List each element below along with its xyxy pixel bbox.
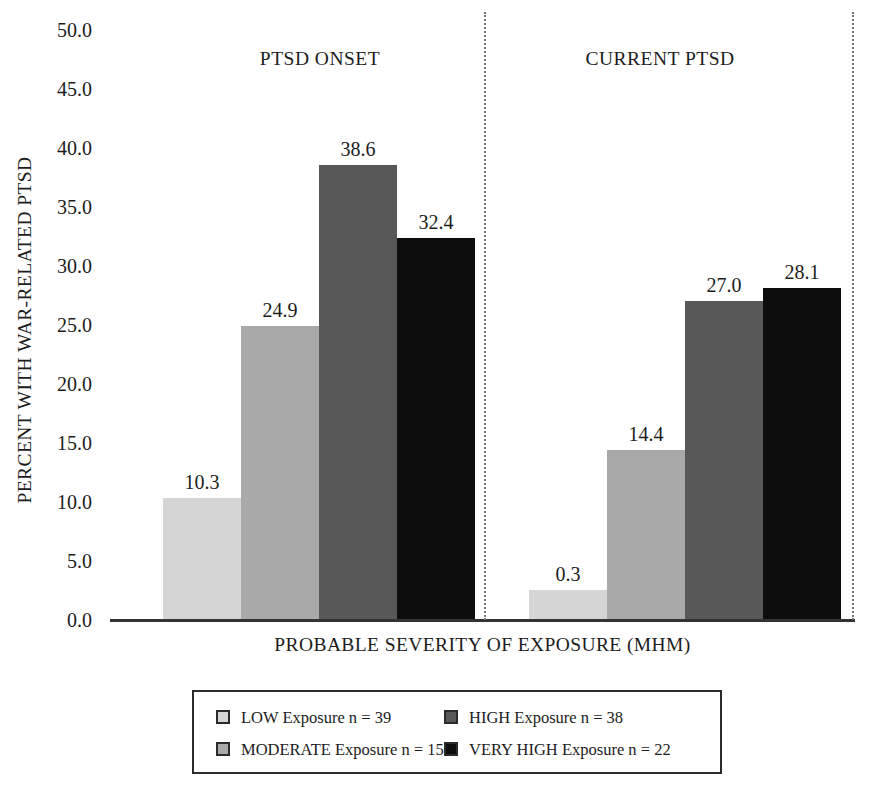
y-axis-tick-label: 45.0 — [0, 79, 104, 99]
bar-value-label: 0.3 — [529, 564, 607, 584]
y-axis-tick-label: 5.0 — [0, 551, 104, 571]
legend-item[interactable]: MODERATE Exposure n = 159 — [216, 736, 452, 762]
legend-item[interactable]: VERY HIGH Exposure n = 22 — [444, 736, 671, 762]
bar-value-label: 10.3 — [163, 472, 241, 492]
y-axis-tick-label: 30.0 — [0, 256, 104, 276]
x-axis-baseline — [110, 619, 855, 622]
legend-swatch-icon — [444, 710, 458, 724]
bar — [397, 238, 475, 620]
bar — [685, 301, 763, 620]
panel-divider-1 — [484, 12, 486, 620]
bar-value-label: 38.6 — [319, 139, 397, 159]
legend-swatch-icon — [216, 742, 230, 756]
legend-item-label: VERY HIGH Exposure n = 22 — [469, 741, 671, 758]
y-axis-tick-labels: 50.045.040.035.030.025.020.015.010.05.00… — [0, 0, 104, 801]
bar — [241, 326, 319, 620]
bar-value-label: 27.0 — [685, 275, 763, 295]
group-label: CURRENT PTSD — [510, 48, 810, 70]
panel-divider-2 — [852, 12, 854, 620]
y-axis-tick-label: 15.0 — [0, 433, 104, 453]
chart-figure: PERCENT WITH WAR-RELATED PTSD 50.045.040… — [0, 0, 881, 801]
legend-item-label: LOW Exposure n = 39 — [241, 709, 391, 726]
bar-value-label: 28.1 — [763, 262, 841, 282]
bar-value-label: 24.9 — [241, 300, 319, 320]
group-label: PTSD ONSET — [170, 48, 470, 70]
bar — [163, 498, 241, 620]
bar — [607, 450, 685, 620]
legend-item-label: MODERATE Exposure n = 159 — [241, 741, 452, 758]
y-axis-tick-label: 20.0 — [0, 374, 104, 394]
y-axis-tick-label: 35.0 — [0, 197, 104, 217]
legend-box: LOW Exposure n = 39HIGH Exposure n = 38M… — [192, 690, 722, 774]
legend-item[interactable]: HIGH Exposure n = 38 — [444, 704, 623, 730]
y-axis-tick-label: 10.0 — [0, 492, 104, 512]
bar-value-label: 32.4 — [397, 212, 475, 232]
legend-item[interactable]: LOW Exposure n = 39 — [216, 704, 391, 730]
legend-item-label: HIGH Exposure n = 38 — [469, 709, 623, 726]
y-axis-tick-label: 25.0 — [0, 315, 104, 335]
bar — [319, 165, 397, 620]
bar — [529, 590, 607, 620]
bar-value-label: 14.4 — [607, 424, 685, 444]
legend-swatch-icon — [444, 742, 458, 756]
plot-area: 10.324.938.632.40.314.427.028.1 — [110, 30, 855, 620]
legend-swatch-icon — [216, 710, 230, 724]
y-axis-tick-label: 40.0 — [0, 138, 104, 158]
y-axis-tick-label: 50.0 — [0, 20, 104, 40]
x-axis-title: PROBABLE SEVERITY OF EXPOSURE (MHM) — [110, 634, 855, 656]
bar — [763, 288, 841, 620]
y-axis-tick-label: 0.0 — [0, 610, 104, 630]
